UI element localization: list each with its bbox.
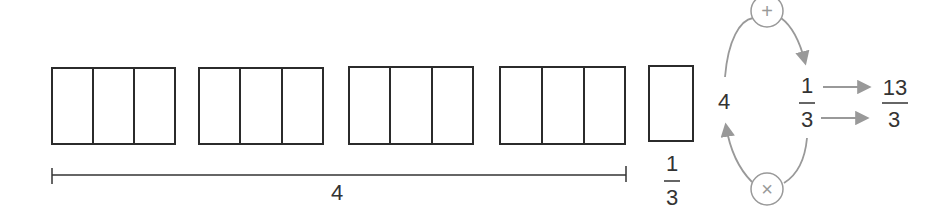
group-box-2 bbox=[199, 68, 323, 144]
bottom-arc-arrow bbox=[726, 126, 752, 182]
fraction-numerator: 1 bbox=[666, 151, 678, 176]
single-part-fraction: 1 3 bbox=[664, 151, 680, 210]
top-arc-left bbox=[725, 18, 753, 77]
conversion-cycle: 4 + × 1 3 13 3 bbox=[718, 0, 908, 205]
group-box-1 bbox=[52, 68, 175, 144]
fraction-denominator: 3 bbox=[666, 185, 678, 210]
top-arc-arrow bbox=[781, 18, 805, 62]
bottom-arc-right bbox=[784, 138, 807, 183]
result-numerator: 13 bbox=[883, 75, 907, 100]
times-icon: × bbox=[761, 178, 773, 200]
conversion-denominator: 3 bbox=[801, 107, 813, 132]
conversion-numerator: 1 bbox=[801, 73, 813, 98]
conversion-whole: 4 bbox=[718, 89, 730, 114]
group-box-4 bbox=[500, 67, 625, 144]
mixed-number-diagram: 4 1 3 4 + × 1 3 13 3 bbox=[0, 0, 948, 220]
single-part-box bbox=[649, 66, 693, 141]
group-box-3 bbox=[349, 67, 473, 144]
result-denominator: 3 bbox=[888, 107, 900, 132]
plus-icon: + bbox=[761, 0, 773, 22]
whole-label: 4 bbox=[331, 180, 343, 205]
